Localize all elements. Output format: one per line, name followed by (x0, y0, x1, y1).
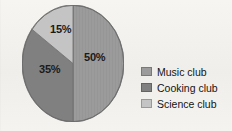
pie-chart: 50% 35% 15% (22, 5, 124, 122)
pie-label-cooking-club: 35% (39, 63, 60, 75)
legend-swatch-science-club (141, 99, 152, 108)
pie-slice-music-club-texture (73, 5, 124, 122)
pie-chart-figure: 50% 35% 15% Music club Cooking club Scie… (0, 0, 232, 131)
pie-label-science-club: 15% (50, 23, 71, 35)
legend-item-music-club: Music club (141, 64, 231, 79)
legend-swatch-music-club (141, 67, 152, 76)
legend-item-cooking-club: Cooking club (141, 80, 231, 95)
legend-item-science-club: Science club (141, 96, 231, 111)
pie-label-music-club: 50% (84, 51, 105, 63)
chart-legend: Music club Cooking club Science club (141, 64, 231, 112)
legend-label-science-club: Science club (157, 98, 217, 110)
legend-swatch-cooking-club (141, 83, 152, 92)
pie-svg (22, 5, 124, 122)
legend-label-music-club: Music club (157, 66, 207, 78)
legend-label-cooking-club: Cooking club (157, 82, 218, 94)
